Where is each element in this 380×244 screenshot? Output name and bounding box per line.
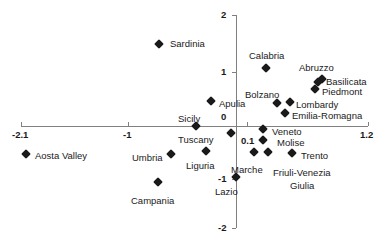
x-tick-label-1-2: 1.2 — [360, 130, 373, 140]
label-campania: Campania — [131, 195, 174, 206]
x-tick-neg1 — [128, 122, 129, 126]
y-tick-1 — [232, 72, 236, 73]
label-apulia: Apulia — [219, 98, 245, 109]
label-liguria: Liguria — [186, 160, 215, 171]
marker-campania — [153, 177, 163, 187]
label-friuli-venezia: Friuli-Venezia — [273, 167, 331, 178]
label-umbria: Umbria — [132, 152, 163, 163]
y-tick-2 — [232, 15, 236, 16]
marker-sardinia — [154, 39, 164, 49]
y-tick-label-0: 0 — [221, 112, 226, 122]
marker-friuli-venezia-giulia — [263, 147, 273, 157]
x-tick-0-1 — [247, 122, 248, 126]
y-tick-label-neg2: -2 — [218, 223, 226, 233]
x-tick-label-0-1: 0.1 — [241, 136, 254, 146]
scatter-plot: -2.1 -1 0.1 1.2 2 1 0 -1 -2 SardiniaCala… — [0, 0, 380, 244]
marker-calabria — [261, 63, 271, 73]
y-tick-label-neg1: -1 — [218, 174, 226, 184]
label-trento: Trento — [301, 150, 328, 161]
x-tick-1-2 — [368, 122, 369, 126]
x-tick-label-neg2-1: -2.1 — [12, 130, 28, 140]
label-giulia: Giulia — [290, 180, 314, 191]
marker-trento — [287, 148, 297, 158]
y-tick-neg2 — [232, 228, 236, 229]
marker-umbria — [166, 149, 176, 159]
label-piedmont: Piedmont — [322, 86, 362, 97]
marker-lombardy — [285, 97, 295, 107]
label-lazio: Lazio — [215, 186, 238, 197]
marker-aosta-valley — [21, 149, 31, 159]
marker-molise — [258, 135, 268, 145]
label-veneto: Veneto — [272, 126, 302, 137]
x-tick-label-neg1: -1 — [123, 130, 131, 140]
y-tick-label-1: 1 — [221, 67, 226, 77]
marker-emilia-romagna — [280, 108, 290, 118]
label-aosta-valley: Aosta Valley — [35, 150, 87, 161]
label-marche: Marche — [231, 164, 263, 175]
marker-tuscany — [226, 128, 236, 138]
marker-liguria — [201, 146, 211, 156]
marker-marche — [249, 147, 259, 157]
marker-apulia — [206, 96, 216, 106]
label-lombardy: Lombardy — [296, 99, 338, 110]
label-bolzano: Bolzano — [245, 89, 279, 100]
label-emilia-romagna: Emilia-Romagna — [292, 110, 362, 121]
label-abruzzo: Abruzzo — [299, 62, 334, 73]
label-sardinia: Sardinia — [170, 38, 205, 49]
x-tick-neg2-1 — [21, 122, 22, 126]
label-sicily: Sicily — [178, 113, 200, 124]
y-tick-label-2: 2 — [221, 10, 226, 20]
label-molise: Molise — [277, 137, 304, 148]
label-calabria: Calabria — [249, 50, 284, 61]
label-tuscany: Tuscany — [178, 134, 214, 145]
